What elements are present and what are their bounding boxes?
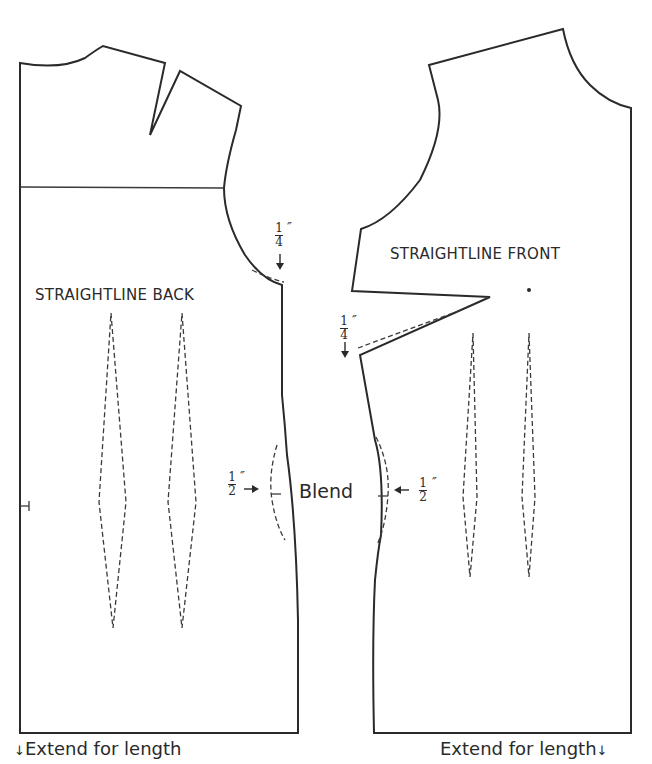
arrow-down-icon: ↓ [597,743,608,758]
front-dart-arrow-icon [341,342,349,358]
back-armhole-adjustment-line [252,270,284,282]
footer-right: Extend for length↓ [440,738,607,759]
front-piece-outline [352,29,631,733]
front-dart-left [463,333,477,577]
back-armhole-arrow-icon [276,254,284,270]
arrow-down-icon: ↓ [14,743,25,758]
pattern-diagram [0,0,652,764]
bust-point [527,288,531,292]
back-dart-right [168,313,196,628]
footer-left: ↓Extend for length [14,738,181,759]
back-waist-arrow-icon [244,485,259,493]
front-piece-title: STRAIGHTLINE FRONT [390,245,560,263]
extend-length-left-label: Extend for length [25,738,182,759]
back-waist-fraction: 1 2 [228,472,236,497]
back-armhole-inch-mark: ″ [287,220,292,235]
back-armhole-fraction: 1 4 [275,223,283,248]
front-dart-adjustment-line [358,310,461,348]
back-waist-inch-mark: ″ [240,469,245,484]
back-piece-title: STRAIGHTLINE BACK [35,286,194,304]
front-waist-inch-mark: ″ [432,475,437,490]
back-waist-blend-line [271,445,285,540]
blend-label: Blend [299,480,353,502]
front-dart-right [522,333,535,577]
back-yoke-line [21,187,223,188]
extend-length-right-label: Extend for length [440,738,597,759]
back-dart-left [99,313,126,628]
front-waist-arrow-icon [394,486,409,494]
back-piece-outline [20,46,298,733]
front-waist-fraction: 1 2 [419,478,427,503]
front-dart-fraction: 1 4 [340,316,348,341]
front-dart-inch-mark: ″ [352,313,357,328]
